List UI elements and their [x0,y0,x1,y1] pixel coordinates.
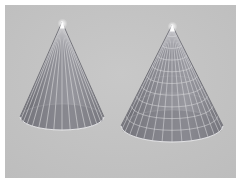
figure-root [0,0,240,184]
plot-panel [5,5,236,178]
cone-plot-svg [5,5,236,178]
